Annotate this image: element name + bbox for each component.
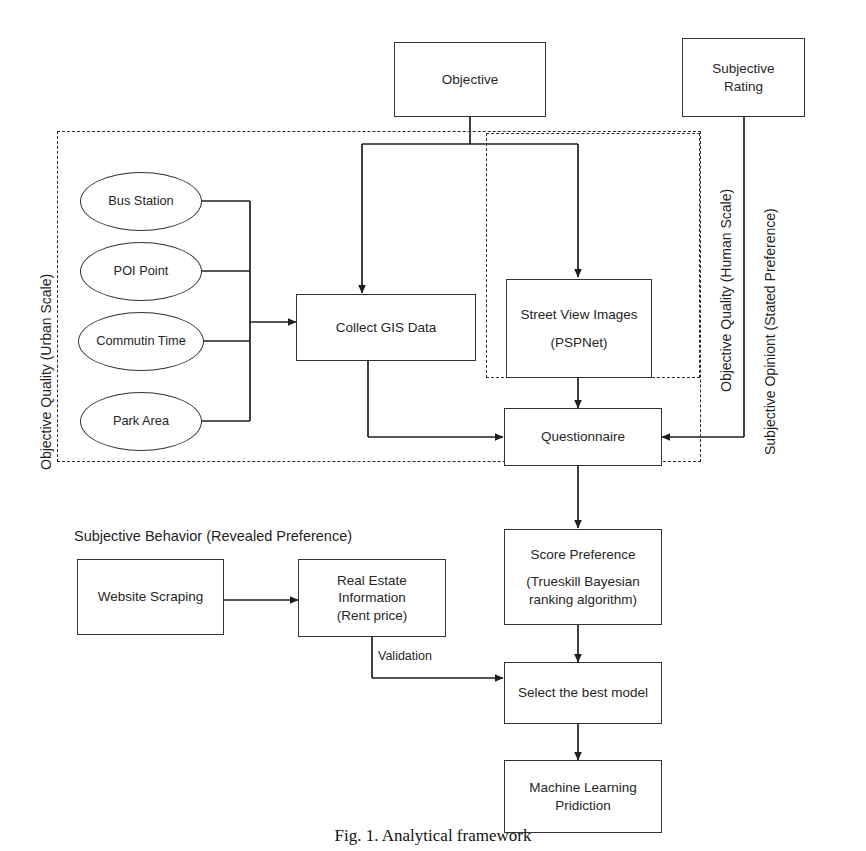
- node-bus-station[interactable]: Bus Station: [80, 172, 202, 231]
- node-real-estate-information-line2: Information: [338, 589, 406, 606]
- node-website-scraping[interactable]: Website Scraping: [77, 559, 224, 635]
- node-commutin-time[interactable]: Commutin Time: [78, 312, 204, 371]
- node-website-scraping-label: Website Scraping: [98, 588, 204, 605]
- node-real-estate-information-line1: Real Estate: [337, 572, 407, 589]
- node-bus-station-label: Bus Station: [108, 193, 173, 209]
- node-poi-point-label: POI Point: [114, 263, 169, 279]
- node-machine-learning-pridiction-line2: Pridiction: [555, 797, 611, 814]
- node-machine-learning-pridiction-line1: Machine Learning: [529, 779, 636, 796]
- node-commutin-time-label: Commutin Time: [96, 333, 186, 349]
- node-street-view-images-line2: (PSPNet): [550, 334, 607, 351]
- node-poi-point[interactable]: POI Point: [80, 242, 202, 301]
- section-label-subjective-behavior: Subjective Behavior (Revealed Preference…: [74, 528, 352, 544]
- node-subjective-rating-line1: Subjective: [712, 60, 774, 77]
- node-collect-gis-data[interactable]: Collect GIS Data: [296, 294, 476, 361]
- node-select-the-best-model-label: Select the best model: [518, 684, 648, 701]
- node-questionnaire[interactable]: Questionnaire: [504, 408, 662, 466]
- node-real-estate-information-line3: (Rent price): [337, 607, 408, 624]
- node-score-preference[interactable]: Score Preference (Trueskill Bayesian ran…: [504, 529, 662, 625]
- diagram-canvas: Objective Quality (Urban Scale) Objectiv…: [0, 0, 866, 851]
- figure-caption: Fig. 1. Analytical framework: [0, 826, 866, 846]
- group-label-objective-quality-human-scale: Objective Quality (Human Scale): [718, 189, 734, 392]
- node-score-preference-line2: (Trueskill Bayesian: [526, 573, 640, 590]
- node-machine-learning-pridiction[interactable]: Machine Learning Pridiction: [504, 760, 662, 833]
- node-objective[interactable]: Objective: [394, 42, 546, 117]
- group-label-subjective-opiniont-stated-preference: Subjective Opiniont (Stated Preference): [762, 208, 778, 455]
- group-label-objective-quality-urban-scale: Objective Quality (Urban Scale): [38, 274, 54, 470]
- node-subjective-rating-line2: Rating: [724, 78, 763, 95]
- node-street-view-images[interactable]: Street View Images (PSPNet): [506, 279, 652, 378]
- node-collect-gis-data-label: Collect GIS Data: [336, 319, 437, 336]
- node-questionnaire-label: Questionnaire: [541, 428, 625, 445]
- edge-label-validation: Validation: [378, 649, 432, 663]
- node-park-area[interactable]: Park Area: [80, 392, 202, 451]
- node-objective-label: Objective: [442, 71, 498, 88]
- node-street-view-images-line1: Street View Images: [521, 306, 638, 323]
- node-select-the-best-model[interactable]: Select the best model: [504, 662, 662, 724]
- node-park-area-label: Park Area: [113, 413, 169, 429]
- node-score-preference-line1: Score Preference: [530, 546, 635, 563]
- node-score-preference-line3: ranking algorithm): [529, 591, 637, 608]
- node-real-estate-information[interactable]: Real Estate Information (Rent price): [298, 559, 446, 637]
- node-subjective-rating[interactable]: Subjective Rating: [682, 38, 805, 117]
